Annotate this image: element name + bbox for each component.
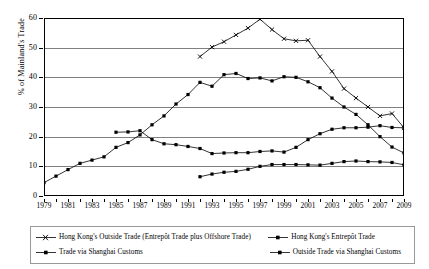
legend-label: Hong Kong's Outside Trade (Entrepôt Trad…: [59, 233, 251, 242]
legend-label: Hong Kong's Entrepôt Trade: [291, 233, 375, 242]
x-axis-tick-label: 1997: [252, 202, 267, 210]
x-axis-tick-label: 1999: [276, 202, 291, 210]
x-axis-tick-label: 1993: [204, 202, 219, 210]
y-axis-tick-label: 30: [29, 103, 37, 111]
x-axis-tick-mark: [368, 199, 369, 202]
x-axis-tick-mark: [248, 199, 249, 202]
x-axis-tick-label: 2003: [324, 202, 339, 210]
x-axis-tick-label: 1995: [228, 202, 243, 210]
y-axis-tick-label: 20: [29, 133, 37, 141]
legend-marker-square-icon: [36, 248, 56, 257]
x-axis-tick-label: 1983: [84, 202, 99, 210]
y-axis-title: % of Mainland's Trade: [17, 0, 26, 132]
x-axis-tick-mark: [200, 199, 201, 202]
y-axis-tick-mark: [39, 196, 43, 197]
legend-marker-square-icon: [268, 233, 288, 242]
legend-marker-square-icon: [270, 248, 290, 257]
plot-area: [44, 18, 404, 196]
y-axis-tick-mark: [39, 77, 43, 78]
x-axis-tick-mark: [296, 199, 297, 202]
x-axis-tick-label: 2007: [372, 202, 387, 210]
legend-item-outside-shanghai-customs: Outside Trade via Shanghai Customs: [270, 248, 409, 257]
y-axis-tick-label: 10: [29, 162, 37, 170]
chart-root: 0102030405060 % of Mainland's Trade 1979…: [0, 0, 429, 269]
y-axis-tick-mark: [39, 48, 43, 49]
legend-row: Trade via Shanghai Customs Outside Trade…: [36, 245, 409, 260]
x-axis-tick-label: 1987: [132, 202, 147, 210]
plot-frame: [44, 18, 404, 196]
legend-item-outside-trade: Hong Kong's Outside Trade (Entrepôt Trad…: [36, 233, 251, 242]
x-axis-tick-mark: [80, 199, 81, 202]
x-axis-tick-label: 1991: [180, 202, 195, 210]
x-axis-tick-mark: [224, 199, 225, 202]
legend-marker-x-icon: [36, 233, 56, 242]
x-axis-tick-mark: [56, 199, 57, 202]
legend-item-entrepot-trade: Hong Kong's Entrepôt Trade: [268, 233, 409, 242]
x-axis-tick-mark: [392, 199, 393, 202]
legend-label: Trade via Shanghai Customs: [59, 248, 143, 257]
y-axis-tick-mark: [39, 166, 43, 167]
legend-label: Outside Trade via Shanghai Customs: [293, 248, 401, 257]
y-axis-tick-label: 40: [29, 73, 37, 81]
x-axis-tick-label: 2001: [300, 202, 315, 210]
x-axis-tick-mark: [128, 199, 129, 202]
legend-row: Hong Kong's Outside Trade (Entrepôt Trad…: [36, 230, 409, 245]
x-axis-tick-label: 1989: [156, 202, 171, 210]
x-axis-tick-mark: [176, 199, 177, 202]
legend-item-shanghai-customs: Trade via Shanghai Customs: [36, 248, 143, 257]
y-axis-tick-label: 60: [29, 14, 37, 22]
y-axis-tick-mark: [39, 137, 43, 138]
y-axis-tick-label: 0: [33, 192, 37, 200]
chart-legend: Hong Kong's Outside Trade (Entrepôt Trad…: [30, 226, 415, 264]
x-axis-tick-label: 1981: [60, 202, 75, 210]
y-axis-tick-label: 50: [29, 44, 37, 52]
x-axis-tick-mark: [152, 199, 153, 202]
x-axis-tick-mark: [320, 199, 321, 202]
y-axis-tick-mark: [39, 107, 43, 108]
x-axis-tick-mark: [344, 199, 345, 202]
x-axis-tick-label: 2005: [348, 202, 363, 210]
x-axis-tick-mark: [104, 199, 105, 202]
x-axis-tick-mark: [272, 199, 273, 202]
x-axis-tick-label: 2009: [396, 202, 411, 210]
x-axis-tick-label: 1985: [108, 202, 123, 210]
x-axis-tick-label: 1979: [36, 202, 51, 210]
x-axis: 1979198119831985198719891991199319951997…: [44, 199, 404, 213]
y-axis-tick-mark: [39, 18, 43, 19]
